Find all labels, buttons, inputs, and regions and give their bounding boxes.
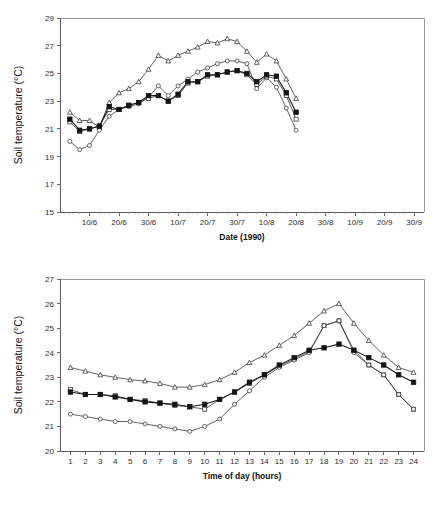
data-point-circle-open — [128, 420, 132, 424]
x-axis-tick-label: 7 — [158, 457, 163, 466]
x-axis-tick-label: 16 — [290, 457, 299, 466]
series-path-series-square-open — [70, 71, 296, 132]
data-point-square-filled — [232, 390, 236, 394]
data-point-triangle-open — [262, 353, 267, 358]
data-point-circle-open — [255, 87, 259, 91]
data-point-circle-open — [235, 59, 239, 63]
data-point-square-filled — [107, 104, 111, 108]
data-point-square-filled — [68, 117, 72, 121]
data-point-triangle-open — [232, 370, 237, 375]
x-axis-title: Time of day (hours) — [203, 471, 282, 481]
data-point-circle-open — [88, 143, 92, 147]
data-point-circle-open — [382, 373, 386, 377]
x-axis-tick-label: 30/6 — [141, 218, 157, 227]
x-axis-tick-label: 18 — [320, 457, 329, 466]
data-point-circle-open — [176, 84, 180, 88]
x-axis-title: Date (1990) — [219, 232, 265, 242]
x-axis-tick-label: 20/8 — [288, 218, 304, 227]
data-point-triangle-open — [126, 86, 131, 91]
data-point-square-filled — [113, 395, 117, 399]
data-point-circle-open — [143, 422, 147, 426]
x-axis-tick-label: 4 — [113, 457, 118, 466]
series-path-series-square-open — [70, 321, 413, 409]
data-point-circle-open — [196, 70, 200, 74]
data-point-square-filled — [158, 401, 162, 405]
data-point-square-filled — [176, 92, 180, 96]
data-point-square-filled — [215, 73, 219, 77]
data-point-square-open — [294, 117, 298, 121]
data-point-square-filled — [156, 93, 160, 97]
data-point-square-filled — [77, 128, 81, 132]
x-axis-tick-label: 10 — [200, 457, 209, 466]
x-axis-tick-label: 21 — [364, 457, 373, 466]
data-point-circle-open — [97, 128, 101, 132]
x-axis-tick-label: 2 — [83, 457, 88, 466]
data-point-circle-open — [274, 85, 278, 89]
data-point-square-filled — [117, 107, 121, 111]
y-axis-tick-label: 20 — [45, 447, 54, 456]
data-point-circle-open — [412, 407, 416, 411]
data-point-square-filled — [307, 348, 311, 352]
x-axis-tick-label: 20/9 — [377, 218, 393, 227]
top-chart-figure: 151719212325272910/620/630/610/720/730/7… — [0, 0, 445, 255]
data-point-circle-open — [215, 62, 219, 66]
data-point-triangle-open — [274, 58, 279, 63]
data-point-circle-open — [113, 420, 117, 424]
data-point-square-filled — [274, 74, 278, 78]
data-point-square-filled — [337, 342, 341, 346]
data-point-square-filled — [173, 402, 177, 406]
data-point-circle-open — [158, 424, 162, 428]
data-point-circle-open — [68, 412, 72, 416]
data-point-circle-open — [247, 389, 251, 393]
data-point-circle-open — [322, 324, 326, 328]
data-point-circle-open — [233, 402, 237, 406]
x-axis-tick-label: 10/7 — [170, 218, 186, 227]
data-point-square-filled — [235, 68, 239, 72]
data-point-triangle-open — [117, 90, 122, 95]
data-point-square-filled — [294, 110, 298, 114]
data-point-triangle-open — [185, 49, 190, 54]
data-point-triangle-open — [225, 36, 230, 41]
data-point-square-filled — [382, 363, 386, 367]
x-axis-tick-label: 10/6 — [82, 218, 98, 227]
data-point-square-filled — [143, 400, 147, 404]
y-axis-title: Soil temperature (°C) — [12, 66, 24, 165]
data-point-square-filled — [196, 80, 200, 84]
data-point-circle-open — [225, 59, 229, 63]
data-point-circle-open — [218, 417, 222, 421]
data-point-triangle-open — [176, 53, 181, 58]
y-axis-tick-label: 21 — [45, 125, 54, 134]
data-point-circle-open — [337, 319, 341, 323]
data-point-square-filled — [137, 100, 141, 104]
x-axis-tick-label: 10/8 — [259, 218, 275, 227]
x-axis-tick-label: 22 — [379, 457, 388, 466]
data-point-circle-open — [206, 66, 210, 70]
y-axis-tick-label: 22 — [45, 398, 54, 407]
y-axis-tick-label: 25 — [45, 324, 54, 333]
y-axis-tick-label: 27 — [45, 275, 54, 284]
data-point-square-open — [203, 407, 207, 411]
data-point-square-filled — [411, 380, 415, 384]
x-axis-tick-label: 17 — [305, 457, 314, 466]
data-point-square-filled — [186, 80, 190, 84]
series-path-series-triangle-open — [70, 304, 413, 388]
data-point-triangle-open — [337, 301, 342, 306]
series-path-series-circle-open — [70, 61, 296, 150]
data-series-group — [67, 36, 298, 151]
data-point-square-filled — [98, 392, 102, 396]
series-path-series-circle-open — [70, 321, 413, 432]
x-axis-tick-label: 20/6 — [111, 218, 127, 227]
data-point-triangle-open — [294, 96, 299, 101]
data-point-triangle-open — [156, 53, 161, 58]
data-point-square-filled — [292, 355, 296, 359]
x-axis-tick-label: 6 — [143, 457, 148, 466]
data-point-circle-open — [173, 427, 177, 431]
x-axis-tick-label: 10/9 — [347, 218, 363, 227]
data-point-triangle-open — [67, 110, 72, 115]
data-point-square-filled — [352, 348, 356, 352]
data-point-square-filled — [245, 71, 249, 75]
x-axis-tick-label: 11 — [215, 457, 224, 466]
plot-frame — [60, 18, 424, 212]
data-point-square-filled — [255, 80, 259, 84]
y-axis-tick-label: 21 — [45, 422, 54, 431]
